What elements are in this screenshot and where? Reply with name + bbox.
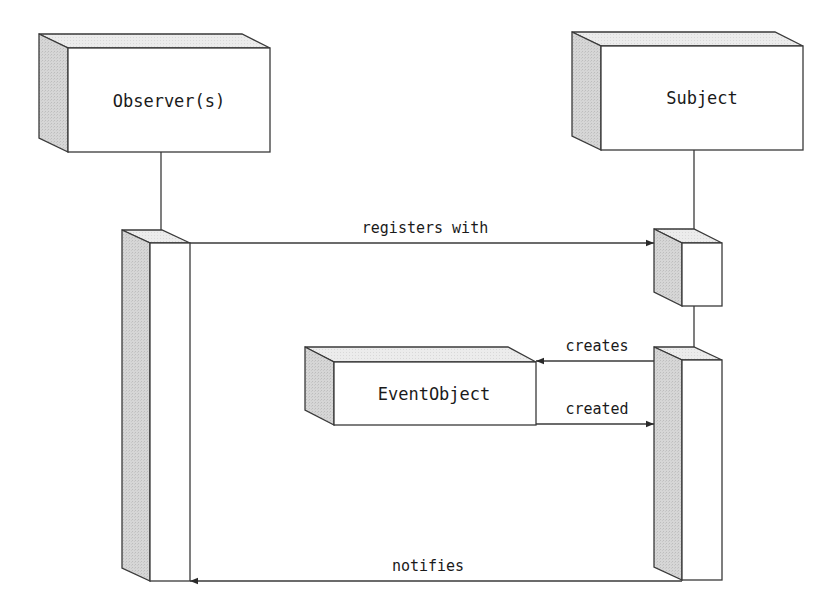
observer-activation-bar <box>122 230 190 581</box>
eventobject-label: EventObject <box>378 384 491 404</box>
subject-activation-register <box>654 229 722 306</box>
subject-label: Subject <box>666 88 738 108</box>
message-creates: creates <box>536 337 654 361</box>
observer-box-side-face <box>39 34 68 152</box>
eventobject-box-top-face <box>305 347 536 362</box>
observer-activation-side-face <box>122 230 150 581</box>
subject-activation-register-front-face <box>682 243 722 306</box>
registers-with-label: registers with <box>362 219 488 237</box>
subject-activation-register-side-face <box>654 229 682 306</box>
eventobject-participant-box: EventObject <box>305 347 536 425</box>
creates-label: creates <box>565 337 628 355</box>
sequence-diagram: Observer(s) Subject EventObject reg <box>0 0 834 612</box>
notifies-label: notifies <box>392 557 464 575</box>
subject-box-top-face <box>572 32 803 46</box>
created-label: created <box>565 400 628 418</box>
subject-participant-box: Subject <box>572 32 803 150</box>
subject-box-side-face <box>572 32 601 150</box>
observer-activation-front-face <box>150 243 190 581</box>
subject-activation-notify <box>654 347 722 580</box>
message-created: created <box>536 400 654 424</box>
message-notifies: notifies <box>190 557 682 581</box>
subject-activation-notify-side-face <box>654 347 682 580</box>
message-registers-with: registers with <box>190 219 654 243</box>
observer-label: Observer(s) <box>113 91 226 111</box>
observer-participant-box: Observer(s) <box>39 34 270 152</box>
subject-activation-notify-front-face <box>682 360 722 580</box>
observer-box-top-face <box>39 34 270 48</box>
